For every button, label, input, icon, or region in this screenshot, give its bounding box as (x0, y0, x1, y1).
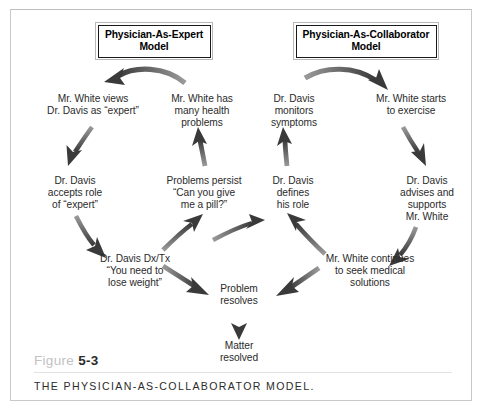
arrow-accepts-to-dxtx (76, 216, 106, 258)
arrow-persist-to-defines (213, 214, 265, 240)
figure-number: Figure 5-3 (34, 353, 99, 368)
arrow-starts-to-advises (403, 127, 426, 166)
figure-container: Physician-As-Expert Model Physician-As-C… (0, 0, 486, 418)
node-white-has-many-health-problems: Mr. White has many health problems (155, 93, 249, 129)
node-davis-monitors-symptoms: Dr. Davis monitors symptoms (258, 93, 330, 129)
caption-divider (34, 372, 452, 373)
arrow-persist-to-white-has (192, 127, 207, 166)
node-white-views-davis-as-expert: Mr. White views Dr. Davis as “expert” (27, 93, 159, 117)
arrow-top-right (305, 69, 388, 90)
model-box-physician-as-expert: Physician-As-Expert Model (95, 22, 213, 60)
figure-number-value: 5-3 (78, 353, 98, 368)
arrow-dxtx-to-persist (163, 214, 203, 250)
arrow-problem-to-matter (231, 311, 247, 340)
model-box-collaborator-label: Physician-As-Collaborator Model (296, 25, 437, 58)
node-davis-advises-and-supports-white: Dr. Davis advises and supports Mr. White (384, 175, 470, 223)
arrow-white-views-to-accepts (67, 127, 93, 166)
node-problem-resolves: Problem resolves (205, 283, 273, 307)
arrow-top-left (104, 68, 185, 85)
node-davis-accepts-role-of-expert: Dr. Davis accepts role of “expert” (26, 175, 124, 211)
arrow-continues-to-defines (287, 213, 325, 254)
node-davis-defines-his-role: Dr. Davis defines his role (262, 175, 324, 211)
model-box-physician-as-collaborator: Physician-As-Collaborator Model (293, 22, 439, 60)
diagram-canvas: Physician-As-Expert Model Physician-As-C… (0, 0, 486, 418)
node-davis-dxtx-you-need-to-lose-weight: Dr. Davis Dx/Tx “You need to lose weight… (83, 253, 187, 289)
node-white-continues-to-seek-medical-solutions: Mr. White continues to seek medical solu… (311, 253, 429, 289)
node-matter-resolved: Matter resolved (205, 340, 273, 364)
arrow-defines-to-monitors (277, 127, 292, 166)
node-white-starts-to-exercise: Mr. White starts to exercise (357, 93, 465, 117)
node-problems-persist-can-you-give-me-a-pill: Problems persist “Can you give me a pill… (150, 175, 258, 211)
model-box-expert-label: Physician-As-Expert Model (98, 25, 211, 58)
figure-caption-title: THE PHYSICIAN-AS-COLLABORATOR MODEL. (34, 380, 315, 392)
figure-number-word: Figure (34, 353, 74, 368)
